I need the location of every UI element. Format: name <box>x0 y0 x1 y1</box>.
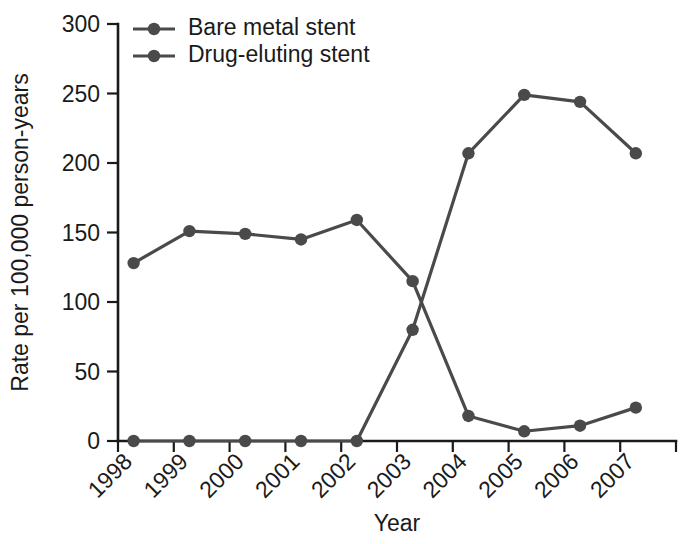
y-axis-tick-label: 200 <box>62 150 100 176</box>
line-chart: 050100150200250300 199819992000200120022… <box>0 0 687 544</box>
data-point-marker <box>351 435 363 447</box>
data-point-marker <box>462 410 474 422</box>
data-point-marker <box>127 435 139 447</box>
y-axis-title: Rate per 100,000 person-years <box>7 73 33 391</box>
data-point-marker <box>462 147 474 159</box>
data-point-marker <box>127 257 139 269</box>
y-axis-tick-label: 150 <box>62 220 100 246</box>
y-axis-tick-label: 250 <box>62 81 100 107</box>
data-point-marker <box>295 233 307 245</box>
data-point-marker <box>239 435 251 447</box>
data-point-marker <box>574 96 586 108</box>
y-axis-tick-label: 100 <box>62 289 100 315</box>
data-point-marker <box>630 401 642 413</box>
data-point-marker <box>183 225 195 237</box>
data-point-marker <box>518 425 530 437</box>
y-axis-tick-label: 0 <box>87 428 100 454</box>
data-point-marker <box>295 435 307 447</box>
legend-label: Bare metal stent <box>188 14 356 40</box>
data-point-marker <box>183 435 195 447</box>
data-point-marker <box>406 275 418 287</box>
data-point-marker <box>574 420 586 432</box>
data-point-marker <box>351 214 363 226</box>
legend-label: Drug-eluting stent <box>188 41 370 67</box>
legend-marker-icon <box>148 50 160 62</box>
data-point-marker <box>518 89 530 101</box>
chart-container: 050100150200250300 199819992000200120022… <box>0 0 687 544</box>
y-axis-tick-label: 50 <box>74 359 100 385</box>
y-axis-tick-label: 300 <box>62 11 100 37</box>
x-axis-title: Year <box>374 510 421 536</box>
data-point-marker <box>406 324 418 336</box>
legend-marker-icon <box>148 23 160 35</box>
data-point-marker <box>239 228 251 240</box>
data-point-marker <box>630 147 642 159</box>
